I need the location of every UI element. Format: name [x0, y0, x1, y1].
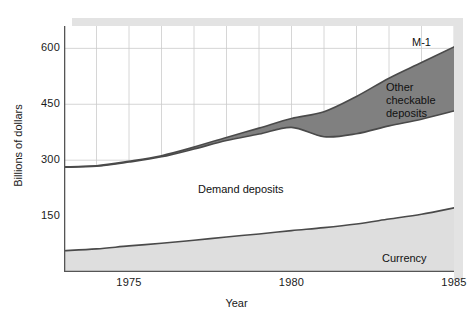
figure-shadow-right — [454, 18, 463, 280]
figure-shadow-top — [72, 18, 462, 26]
x-tick-label: 1985 — [424, 277, 473, 288]
series-label-other-checkable-deposits: Other checkable deposits — [386, 81, 436, 120]
y-tick-label: 150 — [14, 210, 60, 221]
y-tick-label: 600 — [14, 42, 60, 53]
x-tick-label: 1980 — [262, 277, 322, 288]
plot-area — [64, 26, 454, 272]
y-axis-title: Billions of dollars — [13, 86, 24, 206]
series-label-demand-deposits: Demand deposits — [198, 183, 284, 196]
x-tick-label: 1975 — [99, 277, 159, 288]
series-label-m1: M-1 — [412, 36, 431, 49]
chart-figure: 600 450 300 150 1975 1980 1985 Billions … — [0, 0, 473, 319]
x-axis-title: Year — [0, 298, 473, 309]
series-label-currency: Currency — [382, 252, 427, 265]
stacked-area-svg — [64, 26, 454, 272]
